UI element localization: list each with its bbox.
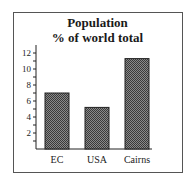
y-tick-label: 4	[27, 112, 32, 122]
bar-usa	[85, 107, 109, 149]
category-label: Cairns	[124, 154, 150, 165]
y-tick-label: 2	[27, 128, 32, 138]
category-label: USA	[87, 154, 108, 165]
bar-cairns	[125, 59, 149, 149]
bar-ec	[45, 93, 69, 149]
y-tick-label: 6	[27, 96, 32, 106]
y-tick-label: 12	[22, 48, 31, 58]
category-label: EC	[51, 154, 64, 165]
bars	[45, 59, 149, 149]
bar-chart-plot: 24681012 ECUSACairns	[0, 0, 195, 184]
y-tick-label: 8	[27, 80, 32, 90]
x-axis-labels: ECUSACairns	[51, 154, 151, 165]
y-tick-label: 10	[22, 64, 32, 74]
